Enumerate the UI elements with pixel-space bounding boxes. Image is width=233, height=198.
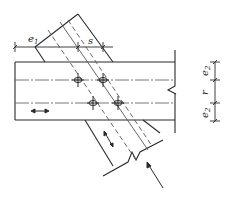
label-e2-top: e2	[199, 65, 212, 76]
label-r: r	[199, 89, 210, 95]
label-e1: e1	[28, 33, 38, 46]
label-e2-bottom: e2	[199, 107, 212, 118]
bolt-icon	[72, 73, 84, 87]
inclined-plate	[35, 14, 163, 176]
bolt-icon	[112, 96, 124, 110]
plate-bolt-lines	[48, 20, 152, 160]
label-s: s	[88, 35, 93, 46]
load-arrow-icon	[147, 162, 163, 188]
double-arrow-diagonal-icon	[104, 131, 113, 147]
bolt-icon	[97, 73, 109, 87]
bolted-connection-diagram: e1 s e2 r e2	[0, 0, 233, 198]
main-member	[15, 50, 176, 133]
double-arrow-horizontal-icon	[31, 109, 49, 113]
bolt-icon	[87, 96, 99, 110]
